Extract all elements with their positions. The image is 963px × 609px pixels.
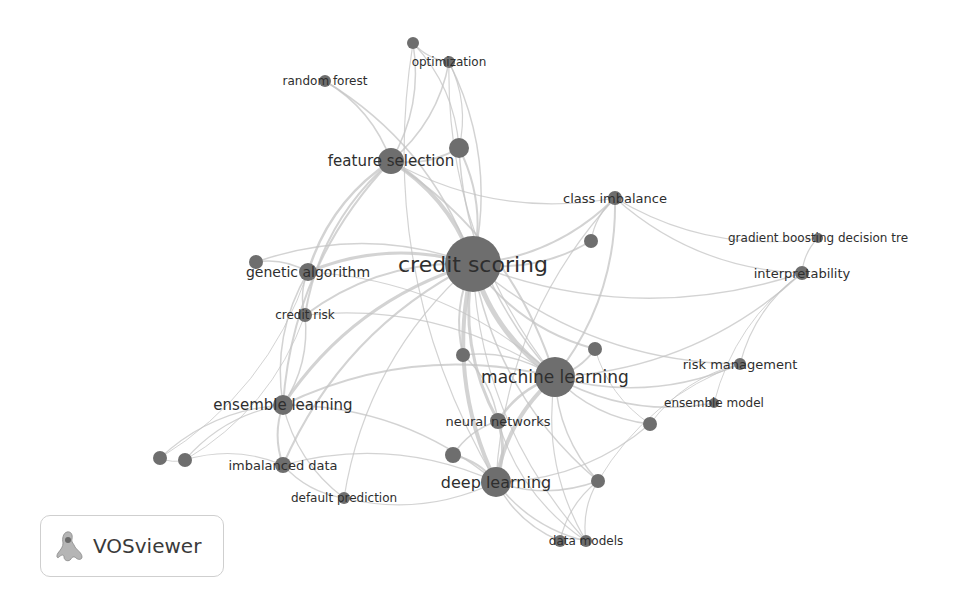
node-left-a[interactable] (153, 451, 167, 465)
edge-feature_selection-random_forest (325, 81, 391, 161)
node-left-b[interactable] (178, 453, 192, 467)
app-name: VOSviewer (93, 534, 201, 558)
label-data-models[interactable]: data models (549, 534, 623, 548)
node-dl-right[interactable] (591, 474, 605, 488)
node-opt-neighbor[interactable] (407, 37, 419, 49)
edge-left_b-credit_risk (185, 315, 305, 460)
label-random-forest[interactable]: random forest (283, 74, 368, 88)
node-em-neighbor[interactable] (643, 417, 657, 431)
label-machine-learning[interactable]: machine learning (481, 367, 629, 387)
edge-credit_scoring-random_forest (325, 81, 473, 264)
edge-ensemble_learning-credit_risk (283, 315, 306, 405)
label-credit-risk[interactable]: credit risk (275, 308, 335, 322)
edge-feature_selection-credit_risk (305, 161, 391, 315)
edge-left_a-genetic_algorithm (160, 272, 308, 458)
label-feature-selection[interactable]: feature selection (328, 152, 454, 170)
label-ensemble-learning[interactable]: ensemble learning (213, 396, 352, 414)
label-deep-learning[interactable]: deep learning (441, 473, 551, 492)
edge-machine_learning-class_imbalance (555, 198, 615, 377)
node-ci-neighbor[interactable] (584, 234, 598, 248)
label-default-prediction[interactable]: default prediction (291, 491, 397, 505)
label-risk-management[interactable]: risk management (683, 357, 797, 372)
node-ml-neighbor[interactable] (588, 342, 602, 356)
edge-ensemble_learning-default_prediction (283, 405, 344, 498)
label-gbdt[interactable]: gradient boosting decision tre (728, 231, 908, 245)
edge-credit_scoring-risk_management (473, 264, 740, 364)
node-dl-neighbor[interactable] (445, 447, 461, 463)
label-genetic-algorithm[interactable]: genetic algorithm (246, 264, 370, 280)
edge-feature_selection-optimization (391, 62, 449, 161)
vosviewer-badge: VOSviewer (40, 515, 224, 577)
label-ensemble-model[interactable]: ensemble model (664, 396, 764, 410)
edge-interpretability-ensemble_model (714, 273, 802, 403)
vosviewer-logo-icon (55, 529, 85, 563)
edge-dl_right-data_models (585, 481, 598, 541)
node-nn-neighbor[interactable] (456, 348, 470, 362)
label-interpretability[interactable]: interpretability (754, 266, 851, 281)
edge-feature_selection-ensemble_learning (283, 161, 391, 405)
labels-layer: credit scoringmachine learningdeep learn… (213, 55, 908, 548)
label-class-imbalance[interactable]: class imbalance (563, 191, 667, 206)
label-imbalanced-data[interactable]: imbalanced data (228, 458, 337, 473)
edge-risk_management-em_neighbor (650, 364, 740, 424)
label-neural-networks[interactable]: neural networks (445, 414, 550, 429)
label-optimization[interactable]: optimization (412, 55, 487, 69)
label-credit-scoring[interactable]: credit scoring (398, 252, 548, 277)
